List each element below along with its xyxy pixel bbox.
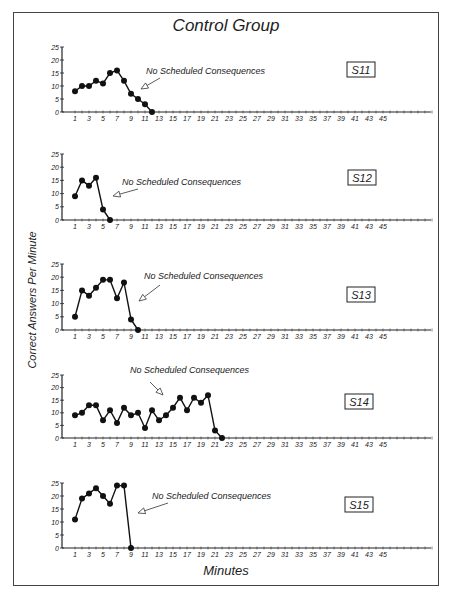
data-point	[86, 293, 92, 299]
x-tick-label: 35	[309, 333, 317, 340]
data-point	[86, 402, 92, 408]
x-tick-label: 39	[337, 115, 345, 122]
panel-s12: 0510152025135791113151719212325272931333…	[50, 151, 432, 231]
x-tick-label: 35	[309, 223, 317, 230]
data-point	[142, 101, 148, 107]
subject-label: S15	[349, 499, 369, 511]
x-tick-label: 13	[155, 223, 163, 230]
data-point	[114, 67, 120, 73]
y-tick-label: 20	[50, 164, 59, 171]
data-point	[135, 96, 141, 102]
arrow-head-icon	[141, 83, 149, 89]
y-tick-label: 10	[51, 83, 59, 90]
data-point	[219, 435, 225, 441]
x-tick-label: 39	[337, 333, 345, 340]
x-tick-label: 31	[281, 441, 289, 448]
x-tick-label: 19	[197, 115, 205, 122]
data-point	[114, 420, 120, 426]
data-point	[107, 70, 113, 76]
x-tick-label: 9	[129, 115, 133, 122]
x-tick-label: 15	[169, 115, 177, 122]
arrow-head-icon	[138, 508, 146, 514]
annotation-arrow	[150, 382, 158, 390]
x-tick-label: 39	[337, 441, 345, 448]
x-tick-label: 21	[210, 333, 219, 340]
x-tick-label: 9	[129, 551, 133, 558]
data-point	[100, 493, 106, 499]
y-tick-label: 5	[55, 313, 59, 320]
y-tick-label: 0	[55, 327, 59, 334]
x-tick-label: 5	[101, 333, 105, 340]
x-tick-label: 25	[238, 115, 247, 122]
x-tick-label: 11	[141, 551, 148, 558]
data-point	[86, 83, 92, 89]
y-tick-label: 5	[55, 96, 59, 103]
x-tick-label: 45	[379, 333, 387, 340]
y-tick-label: 5	[55, 532, 59, 539]
y-tick-label: 15	[51, 177, 59, 184]
x-tick-label: 31	[281, 551, 289, 558]
x-tick-label: 1	[73, 223, 77, 230]
x-tick-label: 13	[155, 551, 163, 558]
data-point	[107, 217, 113, 223]
x-tick-label: 37	[323, 333, 332, 340]
y-tick-label: 5	[55, 203, 59, 210]
data-point	[163, 412, 169, 418]
arrow-head-icon	[139, 294, 146, 301]
x-tick-label: 15	[169, 551, 177, 558]
panel-s15: 0510152025135791113151719212325272931333…	[50, 480, 432, 559]
x-tick-label: 35	[309, 115, 317, 122]
panel-s11: 0510152025135791113151719212325272931333…	[50, 44, 432, 123]
y-tick-label: 20	[50, 493, 59, 500]
x-tick-label: 35	[309, 551, 317, 558]
x-tick-label: 45	[379, 223, 387, 230]
y-tick-label: 25	[50, 151, 59, 158]
x-tick-label: 11	[141, 333, 148, 340]
x-tick-label: 13	[155, 115, 163, 122]
x-tick-label: 9	[129, 223, 133, 230]
x-tick-label: 33	[295, 223, 303, 230]
x-tick-label: 15	[169, 333, 177, 340]
annotation-arrow	[147, 78, 160, 85]
y-tick-label: 0	[55, 545, 59, 552]
x-tick-label: 11	[141, 223, 148, 230]
plots-canvas: 0510152025135791113151719212325272931333…	[0, 0, 452, 601]
x-tick-label: 43	[365, 115, 373, 122]
x-tick-label: 29	[266, 115, 275, 122]
x-tick-label: 3	[87, 441, 91, 448]
data-point	[93, 285, 99, 291]
x-tick-label: 29	[266, 551, 275, 558]
data-point	[100, 417, 106, 423]
y-tick-label: 15	[51, 506, 59, 513]
x-tick-label: 37	[323, 551, 332, 558]
x-tick-label: 15	[169, 441, 177, 448]
y-tick-label: 20	[50, 384, 59, 391]
data-point	[128, 545, 134, 551]
data-point	[79, 496, 85, 502]
x-tick-label: 39	[337, 223, 345, 230]
x-tick-label: 41	[351, 551, 359, 558]
y-tick-label: 20	[50, 274, 59, 281]
x-tick-label: 3	[87, 551, 91, 558]
data-point	[79, 287, 85, 293]
data-point	[128, 91, 134, 97]
x-tick-label: 33	[295, 115, 303, 122]
x-tick-label: 7	[115, 115, 120, 122]
x-tick-label: 1	[73, 333, 77, 340]
arrow-head-icon	[113, 191, 121, 197]
y-tick-label: 25	[50, 480, 59, 487]
x-tick-label: 21	[210, 551, 219, 558]
x-tick-label: 23	[224, 333, 233, 340]
data-point	[156, 417, 162, 423]
data-point	[72, 314, 78, 320]
x-tick-label: 5	[101, 223, 105, 230]
data-point	[79, 83, 85, 89]
x-tick-label: 25	[238, 223, 247, 230]
data-line	[75, 178, 110, 220]
x-tick-label: 25	[238, 441, 247, 448]
data-point	[177, 395, 183, 401]
x-tick-label: 19	[197, 333, 205, 340]
y-tick-label: 25	[50, 372, 59, 379]
x-tick-label: 17	[183, 223, 192, 230]
data-point	[79, 410, 85, 416]
